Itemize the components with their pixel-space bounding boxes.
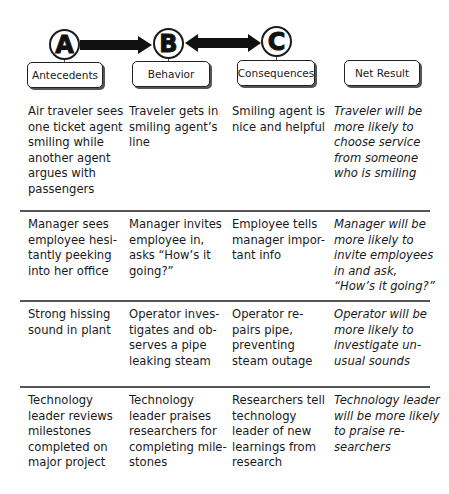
consequence-circle: C <box>261 26 292 57</box>
arrow-double-icon <box>185 34 261 52</box>
consequence-cell: Smiling agent is nice and helpful <box>232 104 325 135</box>
row-divider <box>20 210 430 212</box>
abc-model-header: A B C Antecedents Behavior Consequences … <box>0 0 449 95</box>
consequence-cell: Employee tells manager impor- tant info <box>232 217 325 264</box>
net-result-cell: Operator will be more likely to investig… <box>334 307 427 369</box>
behavior-label: Behavior <box>148 68 195 80</box>
behavior-cell: Traveler gets in smiling agent’s line <box>129 104 218 151</box>
letter-a: A <box>55 33 74 57</box>
antecedents-label-box: Antecedents <box>27 62 103 88</box>
antecedent-circle: A <box>49 29 80 60</box>
antecedent-cell: Strong hissing sound in plant <box>28 307 111 338</box>
consequences-label-box: Consequences <box>237 60 315 86</box>
antecedent-cell: Air traveler sees one ticket agent smili… <box>28 104 123 198</box>
behavior-label-box: Behavior <box>132 61 210 87</box>
arrow-right-icon <box>80 36 152 54</box>
behavior-cell: Operator inves- tigates and ob- serves a… <box>129 307 219 369</box>
net-result-label-box: Net Result <box>344 60 420 86</box>
letter-c: C <box>268 30 286 54</box>
antecedent-cell: Manager sees employee hesi- tantly peeki… <box>28 217 117 279</box>
behavior-cell: Manager invites employee in, asks “How’s… <box>129 217 222 279</box>
net-result-cell: Technology leader will be more likely to… <box>334 393 440 455</box>
net-result-cell: Manager will be more likely to invite em… <box>334 217 435 295</box>
net-result-cell: Traveler will be more likely to choose s… <box>334 104 422 182</box>
antecedent-cell: Technology leader reviews milestones com… <box>28 393 113 471</box>
consequence-cell: Operator re- pairs pipe, preventing stea… <box>232 307 312 369</box>
row-divider <box>20 300 430 302</box>
consequences-label: Consequences <box>238 67 314 79</box>
behavior-cell: Technology leader praises researchers fo… <box>129 393 227 471</box>
consequence-cell: Researchers tell technology leader of ne… <box>232 393 325 471</box>
letter-b: B <box>159 32 177 56</box>
antecedents-label: Antecedents <box>32 69 98 81</box>
behavior-circle: B <box>153 28 184 59</box>
net-result-label: Net Result <box>355 67 409 79</box>
row-divider <box>20 386 430 388</box>
